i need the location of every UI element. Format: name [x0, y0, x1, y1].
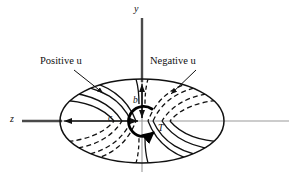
figure-container: Positive u Negative u y z b c T — [0, 0, 289, 180]
label-negative-u: Negative u — [150, 56, 196, 67]
label-c-dimension: c — [108, 114, 112, 124]
label-negative-u-text: Negative u — [150, 55, 196, 66]
label-y-axis: y — [134, 4, 138, 14]
callout-leaders — [74, 70, 196, 94]
label-b-dimension: b — [133, 96, 138, 106]
figure-canvas — [0, 0, 289, 180]
label-torque: T — [158, 123, 164, 133]
label-z-axis: z — [10, 114, 14, 124]
label-positive-u: Positive u — [40, 56, 82, 67]
label-positive-u-text: Positive u — [40, 55, 82, 66]
